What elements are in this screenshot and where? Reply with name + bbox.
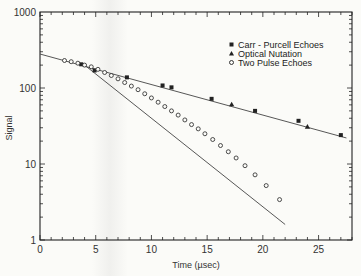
- legend-label: Two Pulse Echoes: [238, 58, 313, 68]
- x-tick-label: 0: [37, 244, 43, 255]
- y-tick-label: 100: [19, 83, 36, 94]
- open-circle-marker: [169, 109, 173, 113]
- fit-line: [85, 65, 286, 224]
- open-circle-marker: [264, 184, 268, 188]
- filled-square-marker: [339, 133, 343, 137]
- x-tick-label: 15: [202, 244, 214, 255]
- legend: Carr - Purcell Echoes Optical Nutation T…: [229, 40, 324, 68]
- filled-square-marker: [161, 83, 165, 87]
- open-circle-marker: [149, 96, 153, 100]
- open-circle-marker: [143, 92, 147, 96]
- open-circle-marker: [203, 132, 207, 136]
- y-tick-label: 1: [30, 235, 36, 246]
- open-circle-marker: [196, 127, 200, 131]
- x-tick-label: 20: [257, 244, 269, 255]
- open-circle-marker: [83, 63, 87, 67]
- x-tick-label: 10: [146, 244, 158, 255]
- filled-square-marker-icon: [230, 43, 234, 47]
- open-circle-marker: [156, 100, 160, 104]
- x-axis-title: Time (µsec): [172, 260, 219, 270]
- open-circle-marker: [183, 118, 187, 122]
- open-circle-marker: [89, 65, 93, 69]
- legend-item-two-pulse: Two Pulse Echoes: [230, 58, 313, 68]
- open-circle-marker: [219, 144, 223, 148]
- open-circle-marker: [76, 61, 80, 65]
- open-circle-marker: [116, 77, 120, 81]
- open-circle-marker: [136, 88, 140, 92]
- open-circle-marker: [253, 173, 257, 177]
- data-points: [63, 59, 343, 202]
- filled-square-marker: [297, 119, 301, 123]
- open-circle-marker-icon: [230, 61, 234, 65]
- open-circle-marker: [176, 113, 180, 117]
- filled-square-marker: [210, 97, 214, 101]
- signal-vs-time-chart: 0510152025 1101001000 Time (µsec) Signal…: [0, 0, 361, 276]
- open-circle-marker: [226, 150, 230, 154]
- open-circle-marker: [163, 105, 167, 109]
- open-circle-marker: [123, 81, 127, 85]
- open-circle-marker: [243, 164, 247, 168]
- filled-triangle-marker: [229, 102, 234, 107]
- x-tick-label: 5: [93, 244, 99, 255]
- open-circle-marker: [234, 156, 238, 160]
- open-circle-marker: [278, 198, 282, 202]
- fit-lines: [40, 54, 346, 224]
- y-tick-labels: 1101001000: [14, 7, 37, 246]
- x-tick-labels: 0510152025: [37, 244, 324, 255]
- filled-triangle-marker-icon: [229, 51, 234, 56]
- open-circle-marker: [211, 138, 215, 142]
- x-tick-label: 25: [313, 244, 325, 255]
- open-circle-marker: [190, 123, 194, 127]
- filled-square-marker: [169, 85, 173, 89]
- y-tick-label: 10: [25, 159, 37, 170]
- open-circle-marker: [69, 60, 73, 64]
- open-circle-marker: [103, 70, 107, 74]
- open-circle-marker: [129, 84, 133, 88]
- open-circle-marker: [109, 74, 113, 78]
- open-circle-marker: [96, 67, 100, 71]
- y-axis-title: Signal: [4, 115, 14, 140]
- filled-square-marker: [125, 75, 129, 79]
- y-tick-label: 1000: [14, 7, 37, 18]
- open-circle-marker: [63, 59, 67, 63]
- filled-square-marker: [253, 109, 257, 113]
